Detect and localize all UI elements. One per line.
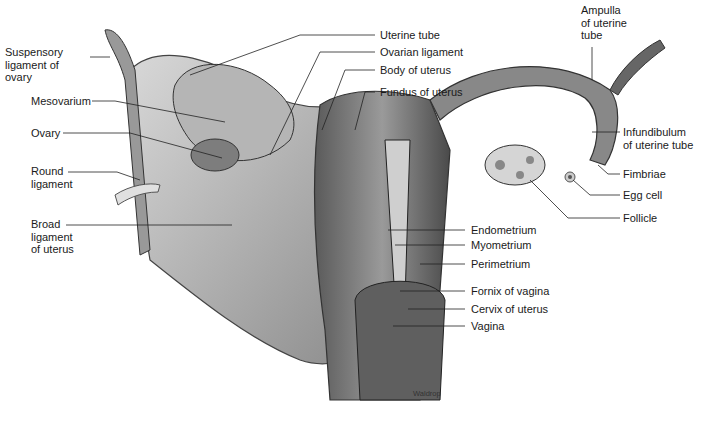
label-mesovarium: Mesovarium [31,95,91,108]
label-fundus-of-uterus: Fundus of uterus [380,86,463,99]
label-broad-ligament: Broad ligament of uterus [31,218,74,256]
label-vagina: Vagina [471,320,504,333]
label-myometrium: Myometrium [471,239,532,252]
right-ovary-shape [485,145,545,185]
label-ampulla: Ampulla of uterine tube [581,4,627,42]
label-infundibulum: Infundibulum of uterine tube [623,126,693,151]
label-ovary: Ovary [31,127,60,140]
label-follicle: Follicle [623,212,657,225]
label-ovarian-ligament: Ovarian ligament [380,46,463,59]
label-endometrium: Endometrium [471,224,536,237]
uterus-anatomy-illustration [0,0,719,423]
label-fimbriae: Fimbriae [623,168,666,181]
label-cervix-of-uterus: Cervix of uterus [471,303,548,316]
label-uterine-tube: Uterine tube [380,29,440,42]
label-body-of-uterus: Body of uterus [380,64,451,77]
label-perimetrium: Perimetrium [471,258,530,271]
label-round-ligament: Round ligament [31,165,73,190]
artist-credit: Waldrop [413,389,441,398]
label-fornix-of-vagina: Fornix of vagina [471,285,549,298]
left-ovary-shape [191,139,239,171]
label-egg-cell: Egg cell [623,189,662,202]
label-suspensory-ligament: Suspensory ligament of ovary [5,46,63,84]
